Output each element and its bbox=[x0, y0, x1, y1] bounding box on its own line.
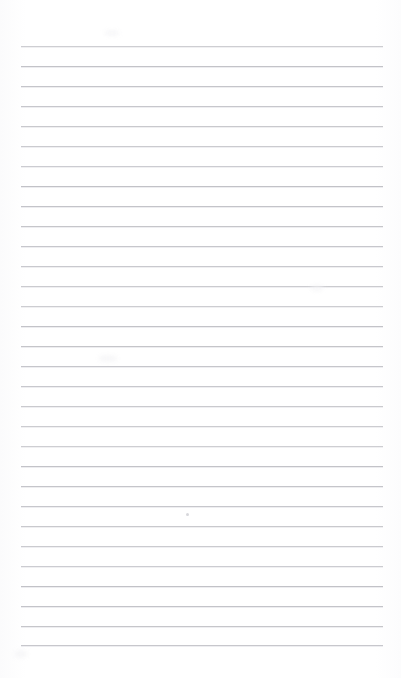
paper-smudge bbox=[104, 30, 120, 36]
notebook-page bbox=[0, 0, 401, 678]
paper-smudge bbox=[14, 650, 28, 658]
writing-area[interactable] bbox=[21, 46, 383, 646]
